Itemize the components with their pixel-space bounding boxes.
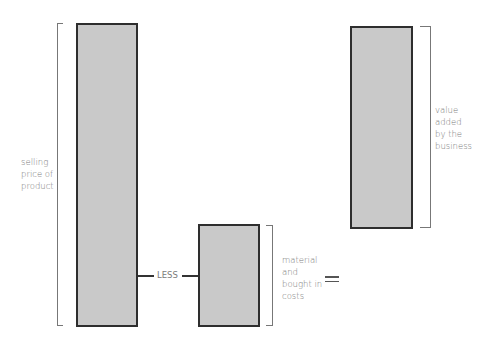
label-line: material	[282, 254, 322, 266]
materials-label: material and bought in costs	[282, 254, 322, 302]
label-line: costs	[282, 290, 322, 302]
materials-bracket	[266, 225, 273, 326]
label-line: selling	[21, 156, 54, 168]
label-line: added	[435, 116, 472, 128]
value-added-bar	[350, 26, 413, 229]
equals-bar-bottom	[325, 281, 339, 283]
label-line: and	[282, 266, 322, 278]
label-line: value	[435, 104, 472, 116]
label-line: bought in	[282, 278, 322, 290]
equals-bar-top	[325, 276, 339, 278]
less-operator: LESS	[157, 270, 178, 280]
label-line: price of	[21, 168, 54, 180]
label-line: product	[21, 180, 54, 192]
equals-operator	[325, 276, 339, 285]
materials-bar	[198, 224, 260, 327]
value-added-label: value added by the business	[435, 104, 472, 152]
selling-price-bar	[76, 23, 138, 327]
selling-price-bracket	[57, 23, 63, 326]
label-line: business	[435, 140, 472, 152]
less-connector-left	[138, 275, 154, 277]
selling-price-label: selling price of product	[21, 156, 54, 192]
less-connector-right	[182, 275, 198, 277]
value-added-bracket	[420, 26, 431, 228]
label-line: by the	[435, 128, 472, 140]
